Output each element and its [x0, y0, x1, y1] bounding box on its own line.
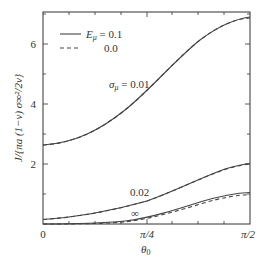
x-tick-pi-2: π/2 — [241, 228, 256, 240]
legend: Eμ = 0.1 0.0 — [60, 28, 122, 54]
y-tick-6: 6 — [31, 38, 37, 50]
x-tick-pi-4: π/4 — [140, 228, 155, 240]
curve-sigma-inf-dashed — [43, 195, 250, 224]
y-ticks — [43, 14, 250, 194]
x-tick-0: 0 — [40, 228, 46, 240]
annotation-infinity: ∞ — [131, 207, 139, 219]
legend-dashed-label: 0.0 — [104, 42, 118, 54]
y-tick-2: 2 — [31, 158, 37, 170]
chart: Eμ = 0.1 0.0 σμ = 0.01 0.02 ∞ 6 4 2 0 π/… — [0, 0, 270, 268]
x-axis-label: θ0 — [141, 243, 150, 257]
y-tick-4: 4 — [31, 98, 37, 110]
annotation-sigma-0.01: σμ = 0.01 — [109, 78, 149, 92]
annotation-0.02: 0.02 — [130, 186, 149, 198]
legend-solid-label: Eμ = 0.1 — [85, 28, 122, 42]
y-axis-label: J/{πa (1−ν) σ∞²/2ν} — [12, 73, 25, 162]
